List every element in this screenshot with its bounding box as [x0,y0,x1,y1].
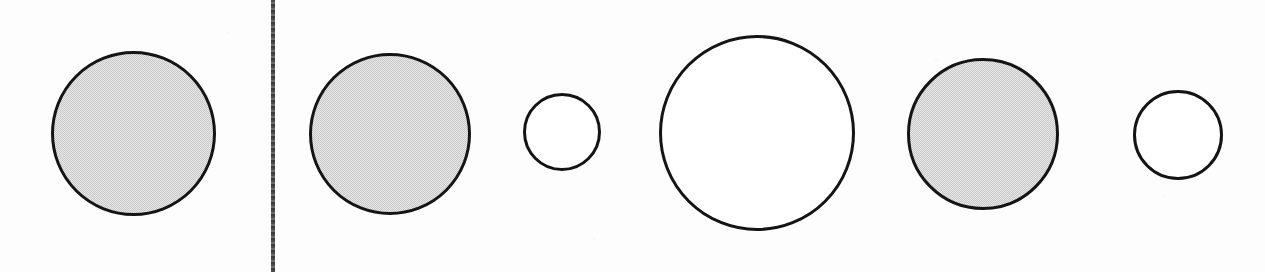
circle-1-gray [51,51,216,216]
circle-2-gray [309,53,471,215]
circle-5-gray [907,58,1059,210]
circle-6-white [1133,90,1223,180]
panel-divider [271,0,275,272]
circle-3-white [523,93,601,171]
circle-4-white [659,35,855,231]
figure-canvas [0,0,1265,272]
